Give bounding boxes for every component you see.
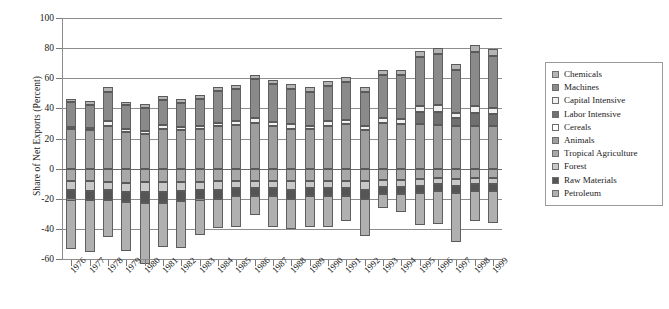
bar-segment bbox=[158, 129, 168, 169]
legend-swatch-icon bbox=[552, 190, 559, 197]
bar-1997[interactable] bbox=[451, 18, 461, 259]
bar-1993[interactable] bbox=[378, 18, 388, 259]
legend-item-forest[interactable]: Forest bbox=[552, 160, 656, 173]
bar-1978[interactable] bbox=[103, 18, 113, 259]
bar-1984[interactable] bbox=[213, 18, 223, 259]
bar-segment bbox=[103, 190, 113, 200]
bar-segment bbox=[140, 203, 150, 264]
legend-item-cereals[interactable]: Cereals bbox=[552, 121, 656, 134]
y-tick-label: 100 bbox=[40, 13, 54, 23]
bar-segment bbox=[66, 99, 76, 103]
bar-segment bbox=[85, 101, 95, 105]
legend-item-label: Cereals bbox=[564, 123, 591, 132]
bar-segment bbox=[378, 123, 388, 169]
bar-segment bbox=[66, 102, 76, 127]
bar-segment bbox=[323, 86, 333, 121]
bar-segment bbox=[286, 84, 296, 89]
bar-segment bbox=[268, 126, 278, 169]
bar-1979[interactable] bbox=[121, 18, 131, 259]
bar-segment bbox=[451, 193, 461, 242]
bar-segment bbox=[433, 112, 443, 125]
bar-segment bbox=[341, 196, 351, 221]
bar-segment bbox=[396, 169, 406, 180]
bar-segment bbox=[415, 57, 425, 106]
bar-segment bbox=[195, 129, 205, 168]
bar-segment bbox=[323, 126, 333, 169]
bar-1988[interactable] bbox=[286, 18, 296, 259]
bar-segment bbox=[433, 125, 443, 169]
bar-1995[interactable] bbox=[415, 18, 425, 259]
legend-item-tropical-agriculture[interactable]: Tropical Agriculture bbox=[552, 147, 656, 160]
bar-segment bbox=[213, 169, 223, 182]
bar-segment bbox=[195, 169, 205, 183]
bar-1987[interactable] bbox=[268, 18, 278, 259]
bar-1989[interactable] bbox=[305, 18, 315, 259]
bar-1994[interactable] bbox=[396, 18, 406, 259]
bar-1981[interactable] bbox=[158, 18, 168, 259]
bar-segment bbox=[378, 194, 388, 208]
bar-1982[interactable] bbox=[176, 18, 186, 259]
legend-swatch-icon bbox=[552, 124, 559, 131]
bar-segment bbox=[268, 169, 278, 181]
bar-segment bbox=[103, 200, 113, 237]
bar-1991[interactable] bbox=[341, 18, 351, 259]
bar-segment bbox=[488, 114, 498, 126]
bar-segment bbox=[250, 181, 260, 189]
bar-segment bbox=[103, 92, 113, 121]
bar-segment bbox=[213, 123, 223, 127]
legend-item-petroleum[interactable]: Petroleum bbox=[552, 187, 656, 200]
bar-1992[interactable] bbox=[360, 18, 370, 259]
legend-item-capital-intensive[interactable]: Capital Intensive bbox=[552, 94, 656, 107]
bar-segment bbox=[305, 196, 315, 227]
bar-segment bbox=[341, 77, 351, 82]
bar-segment bbox=[415, 193, 425, 225]
bar-segment bbox=[305, 169, 315, 181]
bar-1998[interactable] bbox=[470, 18, 480, 259]
bar-1980[interactable] bbox=[140, 18, 150, 259]
bar-segment bbox=[470, 45, 480, 52]
bar-1983[interactable] bbox=[195, 18, 205, 259]
legend-item-chemicals[interactable]: Chemicals bbox=[552, 68, 656, 81]
bar-1977[interactable] bbox=[85, 18, 95, 259]
bar-segment bbox=[158, 169, 168, 183]
bar-segment bbox=[360, 130, 370, 168]
bar-segment bbox=[323, 196, 333, 227]
bar-segment bbox=[85, 130, 95, 168]
bar-segment bbox=[66, 181, 76, 190]
bar-segment bbox=[121, 202, 131, 252]
y-tick-label: 40 bbox=[45, 103, 55, 113]
bar-segment bbox=[176, 127, 186, 130]
bar-segment bbox=[470, 113, 480, 126]
bar-1976[interactable] bbox=[66, 18, 76, 259]
bar-segment bbox=[140, 182, 150, 192]
chart-figure: Share of Net Exports (Percent) 100806040… bbox=[0, 0, 669, 309]
bar-segment bbox=[305, 129, 315, 168]
bar-segment bbox=[158, 125, 168, 129]
bar-segment bbox=[451, 70, 461, 113]
legend-item-animals[interactable]: Animals bbox=[552, 134, 656, 147]
bar-segment bbox=[488, 169, 498, 179]
legend-item-labor-intensive[interactable]: Labor Intensive bbox=[552, 108, 656, 121]
bar-segment bbox=[305, 188, 315, 196]
legend-item-raw-materials[interactable]: Raw Materials bbox=[552, 174, 656, 187]
bar-segment bbox=[451, 186, 461, 194]
bar-segment bbox=[323, 169, 333, 181]
bar-segment bbox=[360, 199, 370, 236]
bar-1990[interactable] bbox=[323, 18, 333, 259]
bar-segment bbox=[323, 81, 333, 86]
y-tick-label: 20 bbox=[45, 134, 55, 144]
legend-swatch-icon bbox=[552, 177, 559, 184]
bar-1996[interactable] bbox=[433, 18, 443, 259]
y-tick-label: 60 bbox=[45, 73, 55, 83]
legend-item-machines[interactable]: Machines bbox=[552, 81, 656, 94]
y-tick-label: -20 bbox=[41, 194, 54, 204]
bar-segment bbox=[66, 190, 76, 200]
bar-segment bbox=[231, 169, 241, 181]
bar-segment bbox=[323, 181, 333, 189]
bar-1986[interactable] bbox=[250, 18, 260, 259]
bar-1999[interactable] bbox=[488, 18, 498, 259]
bar-segment bbox=[470, 52, 480, 106]
bar-1985[interactable] bbox=[231, 18, 241, 259]
bar-segment bbox=[85, 191, 95, 200]
bar-segment bbox=[396, 70, 406, 75]
